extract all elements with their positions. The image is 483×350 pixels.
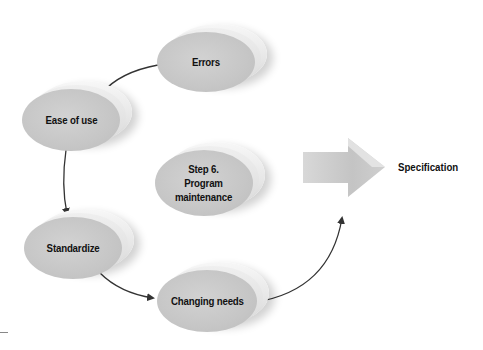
specification-label: Specification — [398, 161, 458, 173]
specification-block-arrow — [303, 138, 385, 197]
node-label: Standardize — [47, 241, 100, 255]
arrow-ease-to-standardize — [64, 150, 67, 214]
center-label: Step 6. Program maintenance — [175, 162, 232, 204]
arrow-standardize-to-changing — [100, 273, 153, 298]
corner-mark — [0, 332, 8, 333]
arrow-changing-to-spec — [256, 218, 342, 302]
node-label: Errors — [192, 55, 220, 69]
node-label: Ease of use — [45, 113, 97, 127]
node-label: Changing needs — [171, 294, 244, 308]
